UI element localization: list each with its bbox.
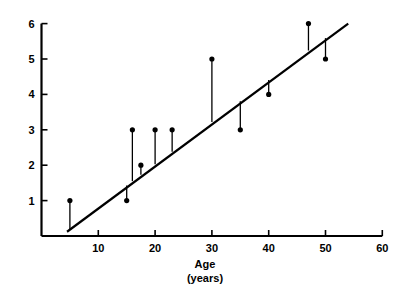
y-tick-label: 2	[28, 160, 34, 171]
data-point[interactable]	[266, 92, 271, 97]
data-point[interactable]	[170, 127, 175, 132]
data-point[interactable]	[209, 56, 214, 61]
y-tick-label: 6	[28, 18, 34, 29]
data-point[interactable]	[130, 127, 135, 132]
x-tick-label: 40	[263, 243, 275, 254]
scatter-plot-figure: 102030405060 123456 Age (years)	[0, 0, 405, 305]
x-tick-label: 60	[376, 243, 388, 254]
data-point[interactable]	[124, 198, 129, 203]
x-tick-label: 10	[92, 243, 104, 254]
axes-group	[42, 24, 383, 236]
regression-line-group	[67, 24, 348, 232]
data-point[interactable]	[153, 127, 158, 132]
regression-line	[67, 24, 348, 232]
x-axis-label-line1: Age	[187, 258, 223, 272]
data-point[interactable]	[306, 21, 311, 26]
data-points-group	[67, 21, 328, 203]
x-tick-label: 50	[319, 243, 331, 254]
data-point[interactable]	[67, 198, 72, 203]
x-tick-label: 30	[206, 243, 218, 254]
data-point[interactable]	[238, 127, 243, 132]
data-point[interactable]	[138, 163, 143, 168]
y-tick-label: 5	[28, 54, 34, 65]
y-tick-label: 1	[28, 195, 34, 206]
x-axis-label-line2: (years)	[187, 272, 223, 286]
x-tick-label: 20	[149, 243, 161, 254]
y-tick-label: 3	[28, 124, 34, 135]
y-tick-label: 4	[28, 89, 34, 100]
residual-stems-group	[70, 24, 326, 230]
data-point[interactable]	[323, 56, 328, 61]
x-axis-label: Age (years)	[187, 258, 223, 286]
